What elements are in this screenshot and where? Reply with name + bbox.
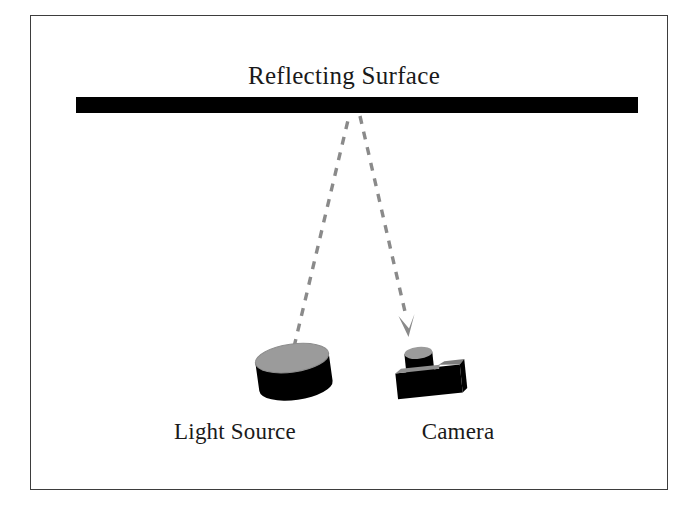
light-source-object <box>253 339 334 405</box>
camera-object <box>393 342 468 399</box>
reflected-ray-arrowhead-icon <box>399 314 415 337</box>
reflecting-surface-bar <box>76 97 638 113</box>
reflected-ray <box>360 116 406 316</box>
figure-container: Reflecting Surface Light Source Camera <box>0 0 688 512</box>
reflecting-surface-label: Reflecting Surface <box>0 62 688 90</box>
incident-ray <box>294 116 349 347</box>
camera-label: Camera <box>378 419 538 445</box>
